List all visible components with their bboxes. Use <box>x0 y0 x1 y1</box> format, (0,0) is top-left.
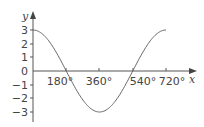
svg-text:−2: −2 <box>12 92 28 105</box>
svg-text:2: 2 <box>21 38 28 51</box>
svg-text:−3: −3 <box>12 106 28 119</box>
svg-text:360°: 360° <box>86 75 113 88</box>
x-tick-labels: 180° 360° 540° 720° <box>47 75 186 88</box>
chart: y x 3 2 1 0 −1 −2 −3 180° 360° 540° 720° <box>0 0 204 127</box>
x-axis-label: x <box>189 73 196 86</box>
y-tick-labels: 3 2 1 0 −1 −2 −3 <box>12 24 28 119</box>
y-axis-label: y <box>21 10 29 23</box>
svg-text:−1: −1 <box>12 79 28 92</box>
y-axis-arrow-icon <box>30 11 36 19</box>
svg-text:540°: 540° <box>130 75 157 88</box>
svg-text:3: 3 <box>21 24 28 37</box>
svg-text:1: 1 <box>21 51 28 64</box>
svg-text:720°: 720° <box>159 75 186 88</box>
svg-text:0: 0 <box>21 65 28 78</box>
